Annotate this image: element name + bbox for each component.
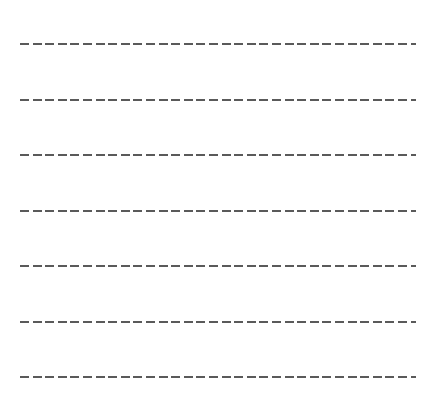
dashed-line-1 xyxy=(20,43,416,45)
dashed-line-4 xyxy=(20,210,416,212)
dashed-line-5 xyxy=(20,265,416,267)
dashed-line-6 xyxy=(20,321,416,323)
dashed-line-3 xyxy=(20,154,416,156)
dashed-line-2 xyxy=(20,99,416,101)
dashed-line-7 xyxy=(20,376,416,378)
